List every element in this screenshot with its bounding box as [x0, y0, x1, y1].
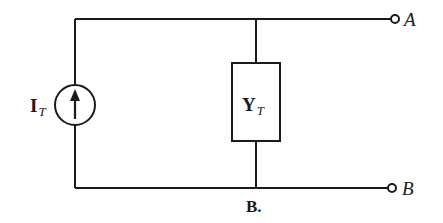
terminal-b-label: B: [402, 179, 414, 198]
figure-caption: B.: [246, 198, 262, 215]
current-symbol: I: [30, 95, 37, 116]
terminal-b-icon: [388, 184, 396, 192]
admittance-subscript: T: [257, 103, 264, 118]
admittance-label: YT: [242, 95, 264, 114]
terminal-a-label: A: [404, 10, 416, 29]
arrow-up-icon: [70, 89, 80, 119]
current-subscript: T: [38, 104, 45, 119]
circuit-diagram: IT YT A B B.: [0, 0, 443, 223]
current-source-label: IT: [30, 96, 46, 115]
admittance-symbol: Y: [242, 94, 256, 115]
circuit-schematic: [0, 0, 443, 223]
terminal-a-icon: [391, 15, 399, 23]
